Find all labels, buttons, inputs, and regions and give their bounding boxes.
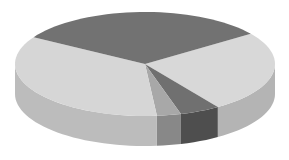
pie-chart-3d [0,0,289,160]
pie-side-3 [157,114,181,146]
pie-top-slices [15,12,275,116]
